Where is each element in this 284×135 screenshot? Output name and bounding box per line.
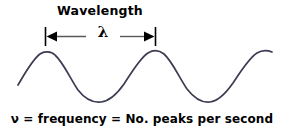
- left-arrowhead-icon: [47, 32, 58, 42]
- right-arrowhead-icon: [144, 32, 155, 42]
- wavelength-diagram: Wavelength λ ν = frequency = No. peaks p…: [0, 0, 284, 135]
- wavelength-label: Wavelength: [0, 3, 200, 18]
- frequency-caption: ν = frequency = No. peaks per second: [0, 112, 284, 126]
- sine-wave-curve: [18, 51, 272, 103]
- lambda-symbol-label: λ: [86, 25, 120, 40]
